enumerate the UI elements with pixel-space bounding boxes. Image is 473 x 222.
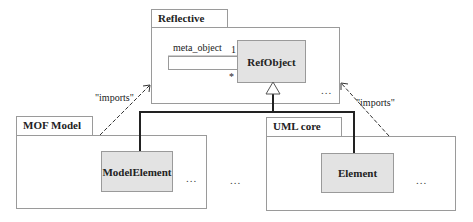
generalization-lines [140,82,354,153]
imports-label-left: "imports" [95,92,134,103]
imports-label-right: "imports" [356,97,395,108]
generalization-triangle-icon [266,82,280,94]
dependency-uml-to-reflective [341,83,389,136]
connectors-layer [0,0,473,222]
